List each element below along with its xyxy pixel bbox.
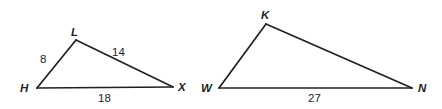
edge-k-n	[266, 24, 412, 88]
triangle-hlx: H L X 8 14 18	[20, 26, 187, 104]
vertex-label-w: W	[201, 82, 213, 94]
edge-h-x	[37, 87, 173, 88]
side-label-lx: 14	[112, 46, 125, 58]
side-label-hl: 8	[40, 53, 46, 65]
triangle-wkn: W K N 27	[201, 9, 427, 104]
vertex-label-k: K	[261, 9, 270, 21]
geometry-diagram: H L X 8 14 18 W K N 27	[0, 0, 442, 109]
vertex-label-n: N	[418, 82, 427, 94]
diagram-canvas: H L X 8 14 18 W K N 27	[0, 0, 442, 109]
vertex-label-l: L	[71, 26, 78, 38]
side-label-hx: 18	[98, 92, 111, 104]
vertex-label-h: H	[20, 82, 29, 94]
side-label-wn: 27	[308, 92, 321, 104]
edge-w-k	[219, 24, 266, 88]
vertex-label-x: X	[177, 81, 187, 93]
